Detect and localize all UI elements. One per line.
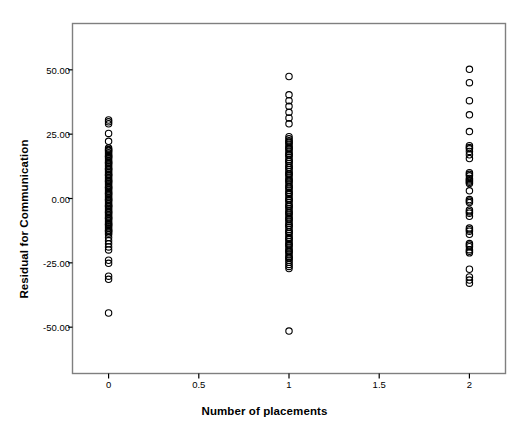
x-axis-tick-label: 0.5 (192, 379, 205, 390)
x-axis-title: Number of placements (0, 405, 529, 417)
x-axis-tick-label: 0 (106, 379, 111, 390)
scatter-plot: Residual for Communication 50.0025.000.0… (0, 0, 529, 437)
x-axis-tick-label: 2 (467, 379, 472, 390)
x-axis-tick-label: 1 (286, 379, 291, 390)
x-axis-tick-label: 1.5 (373, 379, 386, 390)
plot-canvas (0, 0, 529, 437)
plot-frame (73, 24, 506, 374)
